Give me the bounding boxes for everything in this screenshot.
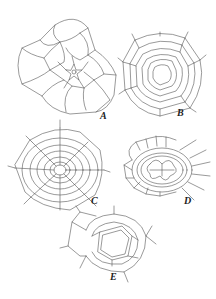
figure-canvas: [0, 0, 216, 299]
panel-label-b: B: [177, 108, 184, 118]
panel-label-d: D: [184, 196, 191, 206]
panel-d-drawing: [124, 136, 210, 200]
panel-b-drawing: [118, 32, 206, 116]
panel-label-e: E: [110, 272, 117, 282]
panel-a-drawing: [18, 19, 116, 114]
panel-label-c: C: [91, 196, 98, 206]
panel-label-a: A: [100, 111, 107, 121]
panel-e-drawing: [60, 206, 156, 282]
